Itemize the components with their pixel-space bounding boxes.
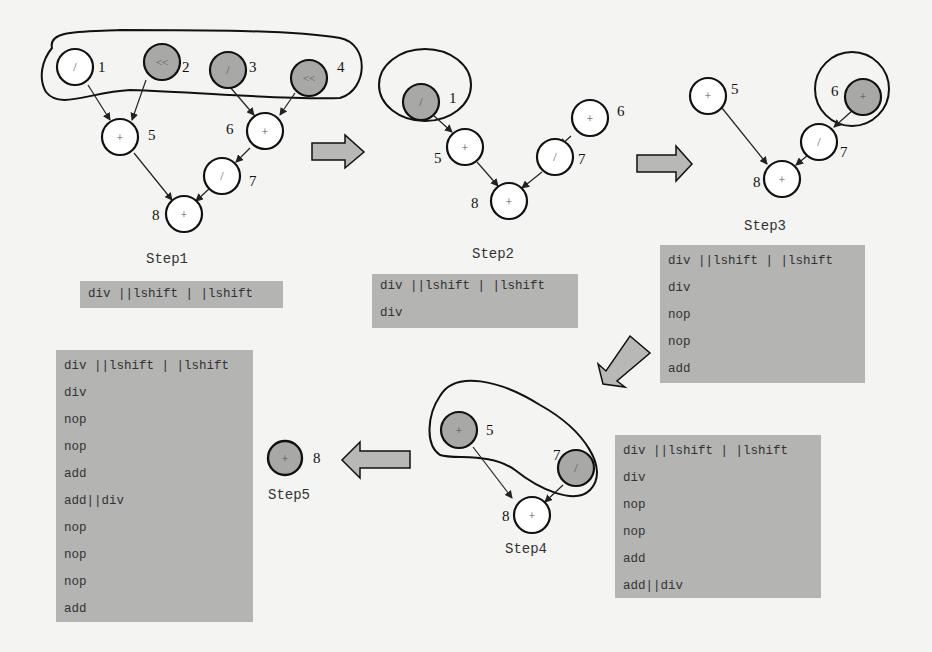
step2-graph: / 1 + 5 + 6 / 7 + 8 — [379, 49, 625, 219]
step1-node-8: + 8 — [152, 196, 202, 232]
step1-node-5: + 5 — [102, 119, 156, 155]
step2-node-1: / 1 — [403, 84, 457, 120]
step1-graph: / 1 << 2 / 3 << 4 + 5 + 6 — [42, 30, 362, 232]
arrow-left-icon — [342, 442, 410, 478]
step4-node-7: / 7 — [553, 447, 594, 486]
svg-text:+: + — [529, 509, 536, 523]
schedule-line: nop — [64, 410, 245, 437]
svg-text:7: 7 — [553, 447, 561, 463]
schedule-line: nop — [623, 495, 813, 522]
svg-text:+: + — [462, 141, 469, 155]
schedule-line: nop — [64, 545, 245, 572]
svg-text:8: 8 — [313, 450, 321, 466]
step3-node-6: + 6 — [831, 79, 881, 115]
step1-node-7: / 7 — [204, 158, 257, 194]
svg-text:<<: << — [156, 56, 168, 68]
step1-node-1: / 1 — [57, 49, 106, 85]
step5-schedule: div ||lshift | |lshift div nop nop add a… — [56, 350, 253, 622]
step1-label: Step1 — [146, 251, 188, 267]
svg-text:5: 5 — [731, 81, 739, 97]
svg-text:+: + — [456, 424, 463, 438]
schedule-line: nop — [64, 572, 245, 599]
step4-label: Step4 — [505, 541, 547, 557]
step1-node-3: / 3 — [210, 52, 257, 88]
step2-schedule: div ||lshift | |lshift div — [372, 274, 578, 328]
svg-text:1: 1 — [449, 90, 457, 106]
step3-label: Step3 — [744, 218, 786, 234]
step3-graph: + 5 + 6 / 7 + 8 — [690, 52, 889, 197]
schedule-line: div — [380, 303, 570, 330]
schedule-line: div ||lshift | |lshift — [380, 276, 570, 303]
schedule-line: div ||lshift | |lshift — [64, 356, 245, 383]
svg-text:7: 7 — [840, 144, 848, 160]
step3-node-5: + 5 — [690, 78, 739, 114]
step3-node-7: / 7 — [801, 124, 848, 160]
step2-label: Step2 — [472, 246, 514, 262]
step5-node-8: + 8 — [268, 441, 321, 475]
svg-text:4: 4 — [337, 59, 345, 75]
schedule-line: nop — [668, 332, 857, 359]
schedule-line: add — [623, 549, 813, 576]
schedule-line: add — [64, 599, 245, 626]
schedule-line: div — [64, 383, 245, 410]
arrow-down-left-icon — [598, 336, 650, 387]
svg-text:+: + — [117, 131, 124, 145]
svg-text:<<: << — [303, 72, 315, 84]
svg-text:5: 5 — [486, 422, 494, 438]
svg-text:6: 6 — [831, 83, 839, 99]
arrow-right-icon — [312, 135, 364, 168]
svg-text:8: 8 — [152, 207, 160, 223]
svg-text:7: 7 — [249, 173, 257, 189]
svg-text:8: 8 — [471, 195, 479, 211]
schedule-line: nop — [64, 518, 245, 545]
schedule-line: div ||lshift | |lshift — [623, 441, 813, 468]
svg-text:+: + — [282, 452, 289, 466]
svg-text:+: + — [705, 89, 712, 103]
step2-node-8: + 8 — [471, 183, 527, 219]
schedule-line: add||div — [623, 576, 813, 603]
schedule-line: add||div — [64, 491, 245, 518]
step2-node-6: + 6 — [572, 100, 625, 136]
schedule-line: div — [623, 468, 813, 495]
svg-text:1: 1 — [98, 59, 106, 75]
svg-text:3: 3 — [249, 59, 257, 75]
step4-node-5: + 5 — [441, 412, 494, 448]
arrow-right-icon — [637, 146, 692, 181]
schedule-line: add — [64, 464, 245, 491]
schedule-line: nop — [623, 522, 813, 549]
schedule-line: div — [668, 278, 857, 305]
step1-schedule: div ||lshift | |lshift — [80, 281, 283, 308]
step5-label: Step5 — [268, 487, 310, 503]
svg-text:+: + — [587, 112, 594, 126]
schedule-line: nop — [668, 305, 857, 332]
svg-text:6: 6 — [617, 103, 625, 119]
schedule-line: div ||lshift | |lshift — [88, 284, 275, 311]
svg-text:5: 5 — [434, 150, 442, 166]
svg-text:+: + — [860, 90, 867, 104]
step4-schedule: div ||lshift | |lshift div nop nop add a… — [615, 435, 821, 598]
svg-text:+: + — [181, 208, 188, 222]
step1-node-2: << 2 — [144, 44, 190, 80]
step4-graph: + 5 / 7 + 8 — [429, 381, 596, 533]
svg-text:6: 6 — [226, 121, 234, 137]
schedule-line: nop — [64, 437, 245, 464]
svg-text:8: 8 — [502, 508, 510, 524]
step3-schedule: div ||lshift | |lshift div nop nop add — [660, 245, 865, 383]
svg-text:8: 8 — [753, 174, 761, 190]
step2-node-5: + 5 — [434, 129, 483, 166]
schedule-line: div ||lshift | |lshift — [668, 251, 857, 278]
svg-text:+: + — [262, 125, 269, 139]
svg-text:5: 5 — [148, 127, 156, 143]
step3-node-8: + 8 — [753, 161, 800, 197]
step1-node-6: + 6 — [226, 113, 283, 149]
step1-node-4: << 4 — [291, 59, 345, 96]
svg-text:+: + — [506, 195, 513, 209]
step5-graph: + 8 — [268, 441, 321, 475]
svg-text:2: 2 — [182, 59, 190, 75]
svg-text:+: + — [779, 173, 786, 187]
step2-node-7: / 7 — [537, 139, 586, 175]
step4-node-8: + 8 — [502, 497, 550, 533]
svg-text:7: 7 — [578, 151, 586, 167]
schedule-line: add — [668, 359, 857, 386]
